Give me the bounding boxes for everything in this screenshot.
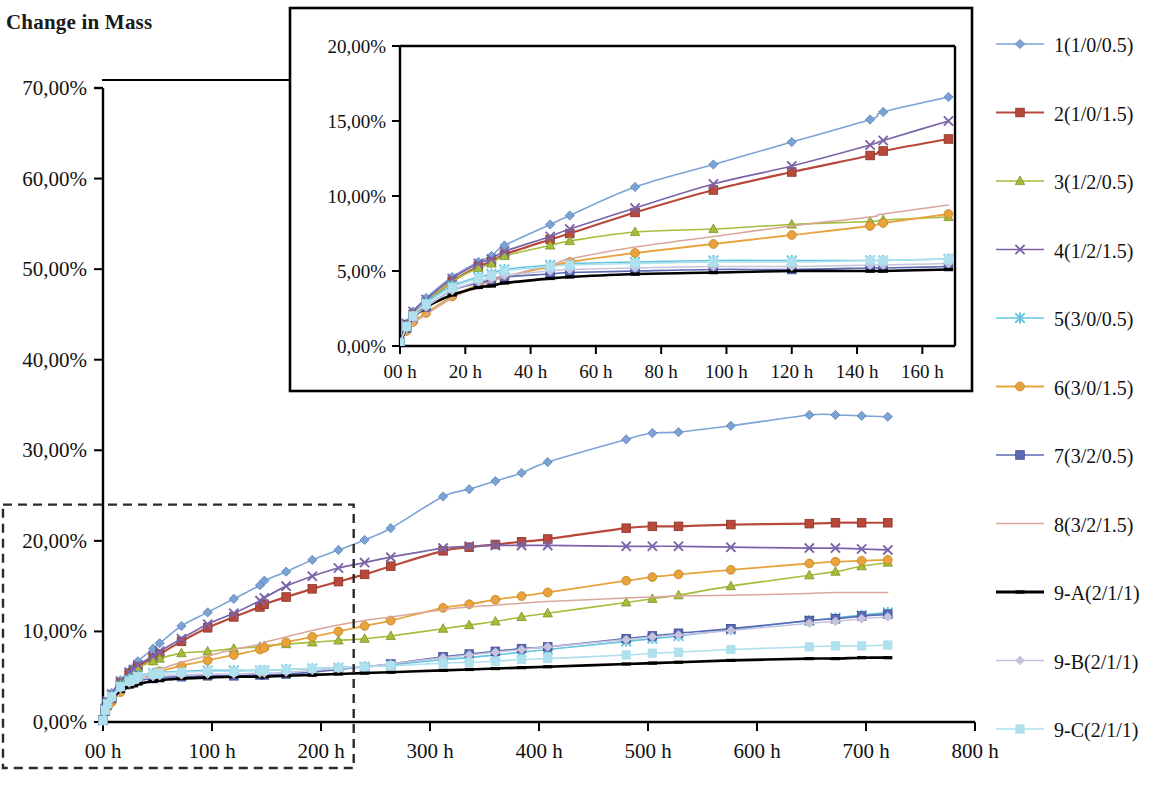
data-point-marker xyxy=(1015,39,1024,48)
data-point-marker xyxy=(282,593,291,602)
inset-x-tick-label: 100 h xyxy=(705,361,748,382)
data-point-marker xyxy=(857,518,866,527)
data-point-marker xyxy=(229,594,238,603)
inset-x-tick-label: 20 h xyxy=(449,361,483,382)
data-point-marker xyxy=(944,135,953,144)
data-point-marker xyxy=(360,663,368,671)
main-y-tick-label: 50,00% xyxy=(22,257,87,281)
data-point-marker xyxy=(308,664,316,672)
inset-y-tick-label: 15,00% xyxy=(327,111,386,132)
data-point-marker xyxy=(883,555,892,564)
data-point-marker xyxy=(282,638,291,647)
data-point-marker xyxy=(674,428,683,437)
data-point-marker xyxy=(438,669,447,672)
data-point-marker xyxy=(334,663,342,671)
legend-item-9-C(2/1/1)[interactable]: 9-C(2/1/1) xyxy=(996,719,1138,742)
data-point-marker xyxy=(546,277,555,280)
data-point-marker xyxy=(500,267,508,275)
main-x-tick-label: 200 h xyxy=(297,739,345,763)
legend-label: 6(3/0/1.5) xyxy=(1054,377,1133,400)
data-point-marker xyxy=(1016,382,1025,391)
legend-label: 7(3/2/0.5) xyxy=(1054,445,1133,468)
legend-item-5(3/0/0.5)[interactable]: 5(3/0/0.5) xyxy=(996,308,1133,331)
legend-label: 2(1/0/1.5) xyxy=(1054,103,1133,126)
main-x-tick-label: 100 h xyxy=(188,739,236,763)
data-point-marker xyxy=(1015,590,1024,593)
legend-item-2(1/0/1.5)[interactable]: 2(1/0/1.5) xyxy=(996,103,1133,126)
data-point-marker xyxy=(116,682,124,690)
data-point-marker xyxy=(944,255,952,263)
main-x-tick-label: 00 h xyxy=(85,739,122,763)
legend-item-8(3/2/1.5)[interactable]: 8(3/2/1.5) xyxy=(996,514,1133,537)
data-point-marker xyxy=(474,274,482,282)
main-x-tick-label: 800 h xyxy=(951,739,999,763)
main-x-tick-label: 400 h xyxy=(515,739,563,763)
data-point-marker xyxy=(177,621,186,630)
data-point-marker xyxy=(805,643,813,651)
data-point-marker xyxy=(260,643,269,652)
inset-x-tick-label: 160 h xyxy=(901,361,944,382)
data-point-marker xyxy=(622,576,631,585)
data-point-marker xyxy=(465,658,473,666)
data-point-marker xyxy=(386,524,395,533)
data-point-marker xyxy=(674,661,683,664)
data-point-marker xyxy=(648,573,657,582)
data-point-marker xyxy=(857,556,866,565)
data-point-marker xyxy=(866,256,874,264)
data-point-marker xyxy=(1016,656,1025,665)
data-point-marker xyxy=(465,485,474,494)
data-point-marker xyxy=(260,666,268,674)
inset-x-tick-label: 00 h xyxy=(383,361,417,382)
data-point-marker xyxy=(884,518,893,527)
legend-item-9-B(2/1/1)[interactable]: 9-B(2/1/1) xyxy=(996,651,1138,674)
data-point-marker xyxy=(566,261,574,269)
main-y-tick-label: 70,00% xyxy=(22,76,87,100)
legend-label: 9-B(2/1/1) xyxy=(1054,651,1138,674)
main-y-tick-label: 60,00% xyxy=(22,167,87,191)
legend-item-9-A(2/1/1)[interactable]: 9-A(2/1/1) xyxy=(996,582,1140,605)
legend-label: 8(3/2/1.5) xyxy=(1054,514,1133,537)
data-point-marker xyxy=(648,428,657,437)
data-point-marker xyxy=(448,283,456,291)
series-line xyxy=(103,612,888,720)
legend-item-6(3/0/1.5)[interactable]: 6(3/0/1.5) xyxy=(996,377,1133,400)
data-point-marker xyxy=(648,649,656,657)
data-point-marker xyxy=(491,657,499,665)
data-point-marker xyxy=(883,412,892,421)
data-point-marker xyxy=(866,222,875,231)
data-point-marker xyxy=(622,651,630,659)
legend-item-1(1/0/0.5)[interactable]: 1(1/0/0.5) xyxy=(996,34,1133,57)
data-point-marker xyxy=(422,300,430,308)
data-point-marker xyxy=(108,692,116,700)
data-point-marker xyxy=(883,656,892,659)
legend-item-3(1/2/0.5)[interactable]: 3(1/2/0.5) xyxy=(996,171,1133,194)
data-point-marker xyxy=(334,577,343,586)
data-point-marker xyxy=(230,667,238,675)
data-point-marker xyxy=(465,668,474,671)
data-point-marker xyxy=(439,659,447,667)
data-point-marker xyxy=(134,673,142,681)
data-point-marker xyxy=(622,435,631,444)
data-point-marker xyxy=(517,655,525,663)
main-y-tick-label: 40,00% xyxy=(22,348,87,372)
data-point-marker xyxy=(1016,108,1025,117)
legend-item-7(3/2/0.5)[interactable]: 7(3/2/0.5) xyxy=(996,445,1133,468)
chart-page: Change in Mass 0,00%10,00%20,00%30,00%40… xyxy=(0,0,1173,796)
data-point-marker xyxy=(727,520,736,529)
main-y-tick-label: 0,00% xyxy=(33,710,87,734)
data-point-marker xyxy=(879,256,887,264)
data-point-marker xyxy=(387,662,395,670)
data-point-marker xyxy=(622,524,631,533)
data-point-marker xyxy=(360,570,369,579)
legend-item-4(1/2/1.5)[interactable]: 4(1/2/1.5) xyxy=(996,240,1133,263)
legend-label: 3(1/2/0.5) xyxy=(1054,171,1133,194)
data-point-marker xyxy=(866,151,875,160)
main-series-group xyxy=(98,410,892,725)
series-line xyxy=(103,563,888,721)
legend-label: 1(1/0/0.5) xyxy=(1054,34,1133,57)
data-point-marker xyxy=(857,656,866,659)
data-point-marker xyxy=(308,572,317,581)
data-point-marker xyxy=(565,275,574,278)
data-point-marker xyxy=(884,641,892,649)
data-point-marker xyxy=(857,642,865,650)
